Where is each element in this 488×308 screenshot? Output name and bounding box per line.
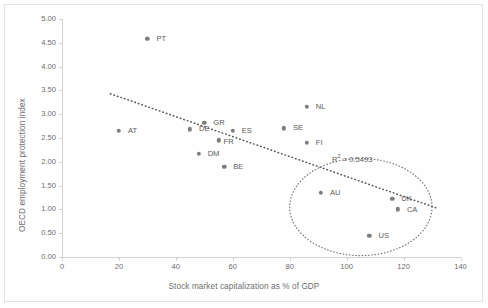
x-tick-label: 20 [99,263,139,271]
data-point-label-fi: FI [316,139,323,147]
x-tick-label: 0 [42,263,82,271]
y-tick-label: 0.50 [41,229,56,237]
y-tick-mark [59,138,62,139]
y-tick-mark [59,209,62,210]
data-point-label-es: ES [242,127,252,135]
y-axis-title: OECD employment protection index [18,98,27,232]
data-point-pt [145,37,149,41]
data-point-uk [390,197,394,201]
data-point-de [188,127,192,131]
y-tick-label: 1.50 [41,182,56,190]
data-point-fi [305,141,309,145]
x-tick-label: 40 [156,263,196,271]
y-tick-mark [59,90,62,91]
data-point-es [231,129,235,133]
x-axis-line [62,257,461,258]
data-point-label-at: AT [128,127,137,135]
data-point-label-se: SE [293,124,303,132]
y-axis-line [62,19,63,258]
y-tick-mark [59,43,62,44]
y-tick-mark [59,114,62,115]
y-tick-label: 2.00 [41,158,56,166]
data-point-label-au: AU [330,189,341,197]
x-tick-mark [461,258,462,261]
x-tick-label: 100 [327,263,367,271]
data-point-label-uk: UK [401,195,412,203]
data-point-label-be: BE [233,163,243,171]
chart-figure: 0.000.501.001.502.002.503.003.504.004.50… [0,0,488,308]
data-point-label-fr: FR [224,138,234,146]
plot-area: 0.000.501.001.502.002.503.003.504.004.50… [0,0,488,308]
y-tick-label: 3.00 [41,110,56,118]
y-tick-label: 1.00 [41,205,56,213]
y-tick-label: 3.50 [41,86,56,94]
data-point-dm [196,152,200,156]
trendline-svg [0,0,488,308]
highlight-ellipse-svg [0,0,488,308]
y-tick-label: 4.50 [41,39,56,47]
x-tick-mark [62,258,63,261]
data-point-label-pt: PT [156,35,166,43]
x-tick-label: 80 [270,263,310,271]
y-tick-label: 2.50 [41,134,56,142]
data-point-us [367,233,371,237]
r-squared-annotation: R2 = 0.5493 [332,153,373,164]
y-tick-label: 5.00 [41,15,56,23]
x-tick-mark [290,258,291,261]
data-point-label-ca: CA [407,206,418,214]
x-tick-mark [119,258,120,261]
y-tick-mark [59,162,62,163]
x-tick-mark [347,258,348,261]
data-point-nl [305,105,309,109]
x-tick-mark [404,258,405,261]
data-point-se [282,126,286,130]
data-point-be [222,164,226,168]
x-tick-label: 120 [384,263,424,271]
trendline [110,94,437,209]
y-tick-mark [59,186,62,187]
data-point-ca [396,207,400,211]
data-point-label-nl: NL [316,103,326,111]
x-axis-title: Stock market capitalization as % of GDP [0,282,488,291]
data-point-at [117,129,121,133]
x-tick-label: 60 [213,263,253,271]
data-point-label-de: DE [199,125,210,133]
data-point-fr [216,138,220,142]
data-point-label-gr: GR [213,119,224,127]
x-tick-label: 140 [441,263,481,271]
y-tick-mark [59,67,62,68]
data-point-label-dm: DM [208,150,220,158]
data-point-label-us: US [378,232,389,240]
x-tick-mark [176,258,177,261]
y-tick-label: 4.00 [41,63,56,71]
y-tick-mark [59,19,62,20]
x-tick-mark [233,258,234,261]
y-tick-label: 0.00 [41,253,56,261]
y-tick-mark [59,233,62,234]
data-point-au [319,191,323,195]
